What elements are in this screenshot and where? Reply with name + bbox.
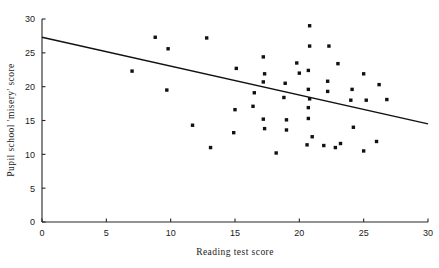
data-point bbox=[263, 72, 266, 75]
data-point bbox=[285, 128, 288, 131]
data-point bbox=[350, 88, 353, 91]
data-point bbox=[209, 146, 212, 149]
data-point bbox=[263, 127, 266, 130]
data-point bbox=[154, 36, 157, 39]
data-point bbox=[166, 47, 169, 50]
data-point bbox=[205, 36, 208, 39]
data-point bbox=[282, 96, 285, 99]
data-point bbox=[274, 151, 277, 154]
x-tick-label: 5 bbox=[104, 228, 109, 238]
data-point bbox=[283, 82, 286, 85]
data-point bbox=[334, 146, 337, 149]
y-tick-label: 25 bbox=[25, 48, 35, 58]
data-point bbox=[262, 80, 265, 83]
data-point bbox=[285, 118, 288, 121]
data-point bbox=[365, 99, 368, 102]
y-tick-label: 0 bbox=[30, 217, 35, 227]
data-point bbox=[308, 24, 311, 27]
data-point bbox=[262, 55, 265, 58]
data-point bbox=[307, 106, 310, 109]
y-tick-label: 10 bbox=[25, 150, 35, 160]
x-tick-label: 15 bbox=[230, 228, 240, 238]
data-point bbox=[233, 108, 236, 111]
data-point bbox=[336, 62, 339, 65]
data-point bbox=[377, 83, 380, 86]
x-axis-title: Reading test score bbox=[196, 247, 274, 257]
data-point bbox=[253, 91, 256, 94]
data-point bbox=[349, 99, 352, 102]
data-point bbox=[326, 90, 329, 93]
data-point bbox=[235, 67, 238, 70]
data-point bbox=[191, 124, 194, 127]
y-tick-label: 15 bbox=[25, 116, 35, 126]
data-point bbox=[232, 131, 235, 134]
x-tick-label: 25 bbox=[359, 228, 369, 238]
data-point bbox=[326, 80, 329, 83]
y-tick-label: 5 bbox=[30, 184, 35, 194]
data-point bbox=[311, 135, 314, 138]
data-point bbox=[327, 44, 330, 47]
y-axis-title: Pupil school 'misery' score bbox=[6, 63, 16, 176]
data-point bbox=[307, 69, 310, 72]
data-point bbox=[362, 72, 365, 75]
data-point bbox=[307, 88, 310, 91]
data-points-group bbox=[130, 24, 388, 155]
x-tick-label: 10 bbox=[166, 228, 176, 238]
data-point bbox=[251, 105, 254, 108]
data-point bbox=[305, 143, 308, 146]
data-point bbox=[295, 61, 298, 64]
chart-canvas: 051015202530051015202530 Reading test sc… bbox=[0, 0, 439, 268]
data-point bbox=[385, 98, 388, 101]
y-tick-label: 20 bbox=[25, 82, 35, 92]
x-tick-label: 30 bbox=[423, 228, 433, 238]
data-point bbox=[308, 44, 311, 47]
data-point bbox=[130, 69, 133, 72]
scatter-plot-figure: 051015202530051015202530 Reading test sc… bbox=[0, 0, 439, 268]
data-point bbox=[165, 88, 168, 91]
x-tick-label: 0 bbox=[39, 228, 44, 238]
axes-group bbox=[42, 19, 428, 222]
data-point bbox=[262, 117, 265, 120]
data-point bbox=[308, 97, 311, 100]
data-point bbox=[362, 149, 365, 152]
data-point bbox=[322, 144, 325, 147]
data-point bbox=[352, 126, 355, 129]
data-point bbox=[298, 71, 301, 74]
data-point bbox=[339, 142, 342, 145]
y-tick-label: 30 bbox=[25, 14, 35, 24]
x-tick-label: 20 bbox=[294, 228, 304, 238]
tick-marks-group bbox=[42, 19, 428, 222]
data-point bbox=[375, 140, 378, 143]
data-point bbox=[307, 117, 310, 120]
